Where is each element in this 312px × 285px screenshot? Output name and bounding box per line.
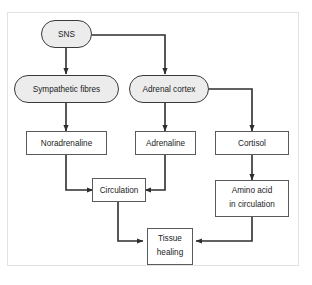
- node-amino-acid-line1: Amino acid: [232, 186, 273, 195]
- edge-amino-acid-to-tissue-healing: [196, 217, 252, 241]
- node-tissue-healing[interactable]: Tissue healing: [148, 229, 193, 265]
- node-noradrenaline-label: Noradrenaline: [41, 139, 93, 148]
- node-cortisol[interactable]: Cortisol: [216, 132, 289, 155]
- edge-circulation-to-tissue-healing: [118, 202, 143, 241]
- node-sympathetic-fibres-label: Sympathetic fibres: [33, 85, 100, 94]
- node-circulation[interactable]: Circulation: [93, 179, 146, 202]
- node-sns[interactable]: SNS: [42, 21, 92, 48]
- node-layer: SNS Sympathetic fibres Adrenal cortex No…: [15, 21, 289, 265]
- edge-sns-to-adrenal-cortex: [92, 35, 165, 74]
- node-tissue-healing-line2: healing: [157, 248, 184, 257]
- node-sns-label: SNS: [58, 30, 75, 39]
- edge-noradrenaline-to-circulation: [66, 155, 93, 190]
- flowchart-figure: SNS Sympathetic fibres Adrenal cortex No…: [0, 0, 312, 285]
- node-sympathetic-fibres[interactable]: Sympathetic fibres: [15, 76, 119, 103]
- node-adrenal-cortex[interactable]: Adrenal cortex: [130, 76, 209, 103]
- flowchart-canvas: SNS Sympathetic fibres Adrenal cortex No…: [0, 0, 312, 285]
- node-adrenaline[interactable]: Adrenaline: [136, 132, 196, 155]
- edge-adrenaline-to-circulation: [145, 155, 165, 190]
- node-adrenaline-label: Adrenaline: [146, 139, 186, 148]
- node-amino-acid-line2: in circulation: [229, 200, 275, 209]
- node-noradrenaline[interactable]: Noradrenaline: [27, 132, 107, 155]
- node-cortisol-label: Cortisol: [238, 139, 266, 148]
- node-tissue-healing-line1: Tissue: [158, 234, 182, 243]
- node-circulation-label: Circulation: [100, 186, 139, 195]
- node-adrenal-cortex-label: Adrenal cortex: [143, 85, 196, 94]
- edge-adrenal-cortex-to-cortisol: [209, 89, 252, 131]
- node-amino-acid-in-circulation[interactable]: Amino acid in circulation: [216, 181, 289, 217]
